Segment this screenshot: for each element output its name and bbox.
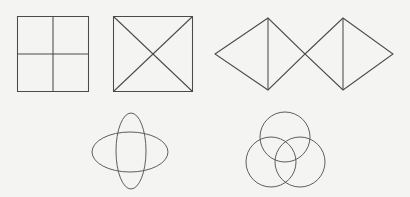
- canvas-background: [0, 0, 410, 197]
- diagram-canvas: Geometric Figures with Axes of Symmetry: [0, 0, 410, 197]
- figures-svg: Geometric Figures with Axes of Symmetry: [0, 0, 410, 197]
